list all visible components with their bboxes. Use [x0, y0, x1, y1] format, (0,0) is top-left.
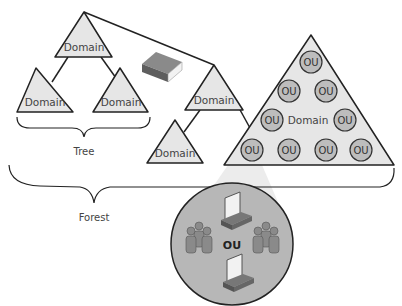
ou-node: OU	[315, 139, 337, 161]
ou-detail-label: OU	[223, 239, 241, 252]
ou-node: OU	[350, 139, 372, 161]
parent-child-line	[184, 110, 200, 132]
book-icon	[142, 52, 182, 82]
tree-right-child-domain: Domain	[93, 68, 148, 112]
svg-text:OU: OU	[281, 145, 296, 156]
svg-text:OU: OU	[318, 86, 333, 97]
ou-node: OU	[278, 139, 300, 161]
svg-text:OU: OU	[303, 57, 318, 68]
ou-node: OU	[241, 139, 263, 161]
big-domain: Domain OU OU OU OU OU OU OU OU OU	[224, 35, 394, 165]
svg-text:OU: OU	[264, 115, 279, 126]
ou-node: OU	[261, 109, 283, 131]
domain-label: Domain	[194, 94, 235, 106]
tree-label: Tree	[73, 146, 95, 157]
domain-label: Domain	[155, 147, 196, 159]
svg-text:OU: OU	[353, 145, 368, 156]
tree-left-child-domain: Domain	[17, 68, 73, 112]
ou-node: OU	[315, 80, 337, 102]
ou-node: OU	[334, 109, 356, 131]
ad-structure-diagram: Domain Domain Domain Tree Domain Domain …	[0, 0, 402, 306]
ou-node: OU	[300, 51, 322, 73]
ou-node: OU	[278, 80, 300, 102]
parent-child-line	[101, 57, 116, 78]
svg-text:OU: OU	[318, 145, 333, 156]
svg-text:OU: OU	[337, 115, 352, 126]
parent-child-line	[52, 57, 68, 82]
domain-label: Domain	[25, 96, 66, 108]
domain-label: Domain	[288, 114, 329, 126]
tree-brace	[17, 117, 150, 137]
second-tree-root-domain: Domain	[185, 65, 243, 110]
domain-label: Domain	[101, 96, 142, 108]
second-tree-child-domain: Domain	[147, 120, 203, 163]
svg-text:OU: OU	[244, 145, 259, 156]
tree-root-domain: Domain	[55, 12, 112, 57]
svg-text:OU: OU	[281, 86, 296, 97]
domain-label: Domain	[64, 41, 105, 53]
forest-label: Forest	[79, 212, 110, 223]
ou-detail: OU	[171, 183, 293, 305]
